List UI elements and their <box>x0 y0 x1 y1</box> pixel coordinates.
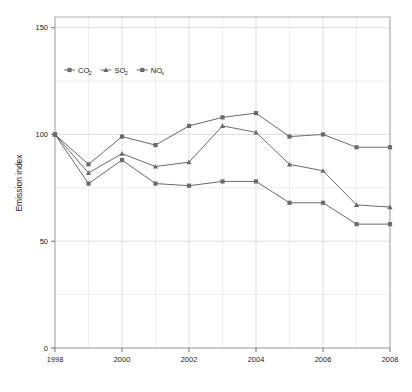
data-point <box>187 184 191 188</box>
x-tick-label: 1998 <box>47 355 64 364</box>
data-point <box>287 201 291 205</box>
x-axis: 199820002002200420062008 <box>47 348 399 364</box>
data-point <box>287 134 291 138</box>
data-point <box>120 158 124 162</box>
legend-label-subscript: 2 <box>125 70 128 76</box>
data-point <box>220 179 224 183</box>
legend-label-subscript: 2 <box>88 70 91 76</box>
emission-index-line-chart: 050100150 199820002002200420062008 Emiss… <box>0 0 412 392</box>
data-point <box>321 201 325 205</box>
data-point <box>254 179 258 183</box>
data-point <box>321 132 325 136</box>
data-point <box>120 134 124 138</box>
y-axis-title: Emission index <box>14 154 24 212</box>
data-point <box>86 162 90 166</box>
data-point <box>388 145 392 149</box>
legend-swatch-marker <box>140 68 144 72</box>
data-point <box>388 222 392 226</box>
y-tick-label: 150 <box>35 23 48 32</box>
data-point <box>53 132 57 136</box>
y-tick-label: 50 <box>40 237 48 246</box>
data-point <box>354 145 358 149</box>
data-point <box>254 111 258 115</box>
y-tick-label: 0 <box>44 344 48 353</box>
x-tick-label: 2002 <box>181 355 198 364</box>
data-point <box>187 124 191 128</box>
chart-figure: 050100150 199820002002200420062008 Emiss… <box>0 0 412 392</box>
x-tick-label: 2008 <box>382 355 399 364</box>
data-point <box>220 115 224 119</box>
legend-label-subscript: x <box>161 70 164 76</box>
x-tick-label: 2000 <box>114 355 131 364</box>
x-tick-label: 2006 <box>315 355 332 364</box>
data-point <box>153 143 157 147</box>
data-point <box>153 181 157 185</box>
data-point <box>86 181 90 185</box>
data-point <box>354 222 358 226</box>
x-tick-label: 2004 <box>248 355 265 364</box>
legend-swatch-marker <box>67 68 71 72</box>
y-axis: 050100150 <box>35 23 55 352</box>
y-tick-label: 100 <box>35 130 48 139</box>
legend-label: SO <box>114 66 125 75</box>
